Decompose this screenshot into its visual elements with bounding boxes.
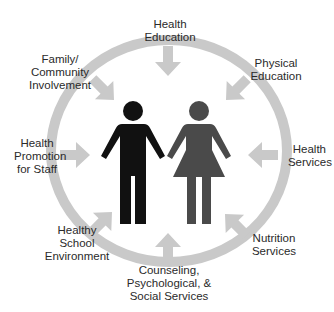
coordinated-school-health-diagram: Health Education Physical Education Heal…	[0, 0, 334, 312]
label-health-promotion-staff: Health Promotion for Staff	[14, 137, 60, 176]
label-health-education: Health Education	[140, 18, 200, 44]
label-health-services: Health Services	[276, 143, 332, 169]
label-counseling: Counseling, Psychological, & Social Serv…	[124, 264, 214, 303]
label-physical-education: Physical Education	[246, 57, 306, 83]
label-healthy-school-environment: Healthy School Environment	[44, 224, 110, 263]
label-nutrition-services: Nutrition Services	[246, 232, 302, 258]
label-family-community: Family/ Community Involvement	[28, 53, 92, 92]
arrow-health-services-icon	[248, 142, 278, 168]
female-figure-icon	[167, 101, 231, 224]
male-figure-icon	[101, 101, 165, 224]
arrow-health-education-icon	[155, 46, 181, 76]
